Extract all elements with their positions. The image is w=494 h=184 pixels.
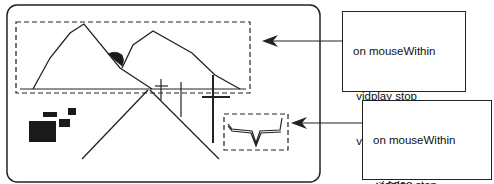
- screen-frame: [7, 5, 320, 182]
- building-bar: [43, 112, 57, 117]
- sign-graphic: [228, 118, 282, 146]
- script-line: vidplay stop: [373, 178, 485, 184]
- sun-icon: [108, 52, 124, 66]
- building-large: [29, 121, 56, 142]
- building-mid: [59, 119, 70, 127]
- left-mountain: [33, 24, 152, 89]
- mountains-script-box: on mouseWithin vidplay stop vidplay fram…: [342, 11, 466, 92]
- script-line: on mouseWithin: [373, 133, 485, 148]
- road-left-edge: [82, 90, 148, 159]
- road-right-edge: [150, 90, 219, 159]
- sign-script-box: on mouseWithin vidplay stop vidplay fram…: [362, 100, 492, 180]
- building-small: [68, 108, 76, 115]
- script-line: on mouseWithin: [353, 44, 459, 59]
